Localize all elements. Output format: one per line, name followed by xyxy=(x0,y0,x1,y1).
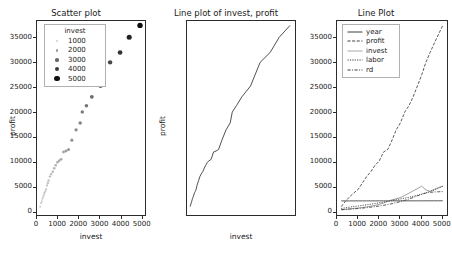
scatter-ytick-mark xyxy=(33,112,36,113)
scatter-ylabel: profit xyxy=(8,116,17,136)
scatter-xtick-mark xyxy=(99,216,100,219)
lineplot-legend-label: profit xyxy=(364,37,385,45)
scatter-point xyxy=(81,110,84,113)
scatter-point xyxy=(47,179,49,181)
lineplot-legend-line-icon xyxy=(346,48,364,54)
scatter-legend-title: invest xyxy=(48,27,102,35)
scatter-ytick-mark xyxy=(33,62,36,63)
scatter-point xyxy=(74,128,77,131)
scatter-point xyxy=(60,158,63,161)
scatter-ytick-mark xyxy=(33,137,36,138)
scatter-legend-marker-icon xyxy=(48,40,66,42)
scatter-point xyxy=(39,206,41,208)
scatter-point xyxy=(118,50,123,55)
scatter-legend-marker-icon xyxy=(48,67,66,71)
scatter-legend-marker-icon xyxy=(48,76,66,81)
lineplot-legend-row: year xyxy=(346,27,396,37)
profit-line xyxy=(190,25,290,206)
scatter-point xyxy=(78,121,81,124)
scatter-xtick-mark xyxy=(78,216,79,219)
lineplot-legend-label: year xyxy=(364,28,382,36)
scatter-size-legend: invest 10002000300040005000 xyxy=(44,24,106,87)
scatter-ytick-label: 0 xyxy=(0,207,32,215)
lineplot-invest-profit-ylabel: profit xyxy=(158,116,167,136)
scatter-point xyxy=(53,167,56,170)
lineplot-invest-profit-plot-area xyxy=(186,20,296,216)
lineplot-legend-row: rd xyxy=(346,65,396,75)
scatter-point xyxy=(70,139,73,142)
scatter-ytick-label: 35000 xyxy=(0,33,32,41)
scatter-point xyxy=(137,23,142,28)
scatter-point xyxy=(52,170,55,173)
scatter-ytick-label: 20000 xyxy=(0,108,32,116)
scatter-point xyxy=(62,151,65,154)
scatter-point xyxy=(108,60,112,64)
scatter-legend-row: 3000 xyxy=(48,55,102,65)
scatter-ytick-label: 5000 xyxy=(0,182,32,190)
scatter-point xyxy=(44,190,46,192)
labor-line xyxy=(341,186,443,208)
scatter-legend-label: 2000 xyxy=(66,46,86,54)
lineplot-title: Line Plot xyxy=(300,8,452,18)
scatter-plot-title: Scatter plot xyxy=(0,8,152,18)
lineplot-legend-row: invest xyxy=(346,46,396,56)
scatter-point xyxy=(54,164,57,167)
scatter-ytick-mark xyxy=(33,37,36,38)
scatter-xtick-mark xyxy=(57,216,58,219)
lineplot-legend-line-icon xyxy=(346,67,364,73)
scatter-point xyxy=(40,202,42,204)
scatter-legend-row: 4000 xyxy=(48,65,102,75)
lineplot-legend-label: invest xyxy=(364,47,387,55)
matplotlib-figure: Scatter plot 050001000015000200002500030… xyxy=(0,0,452,255)
scatter-xtick-mark xyxy=(121,216,122,219)
lineplot-invest-profit-panel: Line plot of invest, profit 050001000015… xyxy=(150,0,302,255)
scatter-point xyxy=(67,148,70,151)
lineplot-legend-label: rd xyxy=(364,66,373,74)
lineplot-legend-row: labor xyxy=(346,56,396,66)
scatter-panel: Scatter plot 050001000015000200002500030… xyxy=(0,0,152,255)
lineplot-legend-line-icon xyxy=(346,38,364,44)
scatter-ytick-mark xyxy=(33,87,36,88)
scatter-point xyxy=(43,194,45,196)
scatter-point xyxy=(85,104,89,108)
scatter-legend-label: 4000 xyxy=(66,65,86,73)
scatter-point xyxy=(50,173,52,175)
scatter-legend-row: 2000 xyxy=(48,46,102,56)
scatter-xlabel: invest xyxy=(36,232,146,241)
scatter-point xyxy=(47,182,49,184)
scatter-point xyxy=(46,184,48,186)
lineplot-legend-label: labor xyxy=(364,56,384,64)
lineplot-legend-line-icon xyxy=(346,57,364,63)
scatter-point xyxy=(127,35,132,40)
scatter-ytick-label: 10000 xyxy=(0,157,32,165)
scatter-legend-marker-icon xyxy=(48,49,66,52)
scatter-point xyxy=(42,196,44,198)
lineplot-invest-profit-title: Line plot of invest, profit xyxy=(150,8,302,18)
scatter-xtick-mark xyxy=(36,216,37,219)
lineplot-panel: Line Plot 050001000015000200002500030000… xyxy=(300,0,452,255)
scatter-legend-row: 1000 xyxy=(48,36,102,46)
scatter-legend-label: 3000 xyxy=(66,56,86,64)
lineplot-invest-profit-line-layer xyxy=(187,21,295,215)
scatter-ytick-label: 25000 xyxy=(0,83,32,91)
scatter-ytick-mark xyxy=(33,187,36,188)
scatter-ytick-mark xyxy=(33,162,36,163)
scatter-point xyxy=(41,200,43,202)
scatter-point xyxy=(45,188,47,190)
scatter-legend-marker-icon xyxy=(48,58,66,62)
scatter-point xyxy=(90,95,94,99)
lineplot-legend: yearprofitinvestlaborrd xyxy=(342,24,400,78)
lineplot-invest-profit-xlabel: invest xyxy=(186,232,296,241)
scatter-point xyxy=(49,175,51,177)
scatter-legend-label: 1000 xyxy=(66,37,86,45)
scatter-point xyxy=(41,198,43,200)
scatter-ytick-mark xyxy=(33,212,36,213)
lineplot-legend-row: profit xyxy=(346,37,396,47)
lineplot-legend-line-icon xyxy=(346,29,364,35)
scatter-point xyxy=(65,150,68,153)
scatter-legend-row: 5000 xyxy=(48,74,102,84)
scatter-legend-label: 5000 xyxy=(66,75,86,83)
scatter-xtick-mark xyxy=(142,216,143,219)
scatter-ytick-label: 30000 xyxy=(0,58,32,66)
